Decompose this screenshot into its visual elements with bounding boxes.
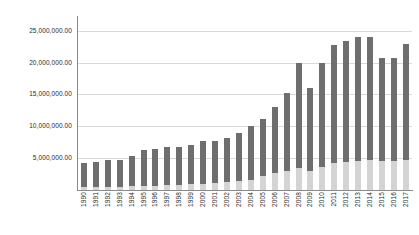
bar-column[interactable] — [185, 18, 197, 190]
bar-stack[interactable] — [391, 58, 397, 190]
bar-segment-upper[interactable] — [343, 41, 349, 162]
bar-segment-lower[interactable] — [296, 168, 302, 190]
bar-column[interactable] — [293, 18, 305, 190]
bar-column[interactable] — [233, 18, 245, 190]
bar-column[interactable] — [138, 18, 150, 190]
bar-column[interactable] — [197, 18, 209, 190]
bar-segment-upper[interactable] — [117, 160, 123, 186]
bar-segment-upper[interactable] — [260, 119, 266, 176]
bar-stack[interactable] — [379, 58, 385, 190]
bar-segment-lower[interactable] — [236, 181, 242, 190]
bar-column[interactable] — [340, 18, 352, 190]
bar-column[interactable] — [161, 18, 173, 190]
bar-column[interactable] — [150, 18, 162, 190]
bar-stack[interactable] — [260, 119, 266, 190]
bar-stack[interactable] — [164, 147, 170, 190]
bar-stack[interactable] — [200, 141, 206, 190]
bar-segment-lower[interactable] — [129, 186, 135, 190]
bar-stack[interactable] — [307, 88, 313, 190]
bar-column[interactable] — [352, 18, 364, 190]
bar-segment-upper[interactable] — [105, 160, 111, 186]
bar-column[interactable] — [328, 18, 340, 190]
bar-segment-lower[interactable] — [81, 187, 87, 190]
bar-column[interactable] — [173, 18, 185, 190]
bar-segment-upper[interactable] — [272, 107, 278, 173]
bar-stack[interactable] — [212, 141, 218, 190]
bar-segment-upper[interactable] — [224, 138, 230, 182]
bar-stack[interactable] — [367, 37, 373, 190]
bar-segment-lower[interactable] — [200, 184, 206, 190]
bar-stack[interactable] — [284, 93, 290, 190]
bar-segment-lower[interactable] — [93, 187, 99, 190]
bar-segment-lower[interactable] — [176, 185, 182, 190]
bar-segment-upper[interactable] — [355, 37, 361, 161]
bar-stack[interactable] — [355, 37, 361, 190]
bar-segment-lower[interactable] — [355, 161, 361, 190]
bar-segment-lower[interactable] — [188, 184, 194, 190]
bar-stack[interactable] — [117, 160, 123, 190]
bar-segment-lower[interactable] — [164, 185, 170, 190]
bar-stack[interactable] — [152, 149, 158, 190]
bar-segment-upper[interactable] — [93, 162, 99, 187]
bar-segment-upper[interactable] — [129, 156, 135, 187]
bar-segment-lower[interactable] — [248, 180, 254, 190]
bar-stack[interactable] — [93, 162, 99, 190]
bar-column[interactable] — [400, 18, 412, 190]
bar-segment-lower[interactable] — [331, 163, 337, 190]
bar-segment-lower[interactable] — [224, 182, 230, 190]
bar-stack[interactable] — [141, 150, 147, 190]
bar-segment-lower[interactable] — [272, 173, 278, 190]
bar-segment-lower[interactable] — [284, 171, 290, 190]
bar-stack[interactable] — [105, 160, 111, 190]
bar-segment-upper[interactable] — [248, 126, 254, 180]
bar-segment-upper[interactable] — [319, 63, 325, 167]
bar-column[interactable] — [126, 18, 138, 190]
bar-segment-upper[interactable] — [391, 58, 397, 162]
bar-column[interactable] — [388, 18, 400, 190]
bar-column[interactable] — [376, 18, 388, 190]
bar-column[interactable] — [221, 18, 233, 190]
bar-segment-lower[interactable] — [379, 161, 385, 190]
bar-segment-upper[interactable] — [367, 37, 373, 160]
bar-segment-lower[interactable] — [260, 176, 266, 190]
bar-stack[interactable] — [331, 45, 337, 190]
bar-segment-upper[interactable] — [307, 88, 313, 171]
bar-stack[interactable] — [176, 147, 182, 190]
bar-column[interactable] — [245, 18, 257, 190]
bar-stack[interactable] — [129, 156, 135, 190]
bar-column[interactable] — [78, 18, 90, 190]
bar-stack[interactable] — [188, 145, 194, 190]
bar-segment-lower[interactable] — [403, 160, 409, 190]
bar-stack[interactable] — [224, 138, 230, 190]
bar-segment-lower[interactable] — [367, 160, 373, 190]
bar-column[interactable] — [209, 18, 221, 190]
bar-column[interactable] — [269, 18, 281, 190]
bar-stack[interactable] — [403, 44, 409, 191]
bar-segment-upper[interactable] — [236, 133, 242, 181]
bar-segment-lower[interactable] — [391, 161, 397, 190]
bar-column[interactable] — [316, 18, 328, 190]
bar-segment-upper[interactable] — [284, 93, 290, 171]
bar-segment-upper[interactable] — [403, 44, 409, 161]
bar-stack[interactable] — [343, 41, 349, 190]
bar-segment-upper[interactable] — [141, 150, 147, 186]
bar-segment-upper[interactable] — [164, 147, 170, 185]
bar-column[interactable] — [364, 18, 376, 190]
bar-column[interactable] — [114, 18, 126, 190]
bar-column[interactable] — [102, 18, 114, 190]
bar-stack[interactable] — [272, 107, 278, 190]
bar-segment-lower[interactable] — [105, 187, 111, 191]
bar-segment-upper[interactable] — [176, 147, 182, 185]
bar-column[interactable] — [281, 18, 293, 190]
bar-column[interactable] — [305, 18, 317, 190]
bar-segment-lower[interactable] — [117, 187, 123, 191]
bar-stack[interactable] — [296, 63, 302, 190]
bar-segment-lower[interactable] — [152, 186, 158, 190]
bar-segment-lower[interactable] — [319, 167, 325, 190]
bar-column[interactable] — [90, 18, 102, 190]
bar-segment-lower[interactable] — [343, 162, 349, 190]
bar-segment-upper[interactable] — [200, 141, 206, 184]
bar-segment-upper[interactable] — [152, 149, 158, 185]
bar-stack[interactable] — [319, 63, 325, 190]
bar-segment-upper[interactable] — [296, 63, 302, 169]
